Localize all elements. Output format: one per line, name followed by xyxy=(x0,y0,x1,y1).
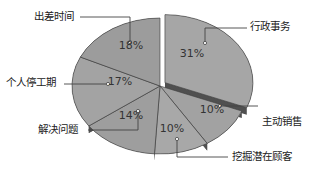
callout-label-problem: 解决问题 xyxy=(38,123,79,135)
leader-dot xyxy=(203,41,206,44)
leader-dot xyxy=(175,137,178,140)
callout-label-downtime: 个人停工期 xyxy=(6,76,56,88)
callout-label-admin: 行政事务 xyxy=(250,20,291,32)
pct-label-31: 31% xyxy=(180,47,204,60)
callout-label-prospecting: 挖掘潜在顾客 xyxy=(232,150,293,162)
pie-chart: 31% 行政事务 10% 主动销售 10% 挖掘潜在顾客 14% 解决问题 17… xyxy=(0,0,309,172)
pct-label-18: 18% xyxy=(119,39,143,52)
pct-label-10a: 10% xyxy=(200,103,224,116)
pct-label-10b: 10% xyxy=(160,122,184,135)
callout-label-sales: 主动销售 xyxy=(262,115,302,127)
pct-label-14: 14% xyxy=(119,109,143,122)
callout-label-travel: 出差时间 xyxy=(34,10,74,22)
pct-label-17: 17% xyxy=(108,75,132,88)
